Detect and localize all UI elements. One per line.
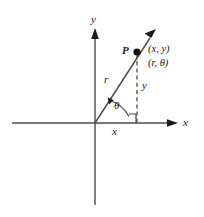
- y-axis: [91, 28, 99, 205]
- polar-coordinate-diagram: y x P (x, y) (r, θ) r θ x y: [0, 0, 204, 217]
- cartesian-coordinate-label: (x, y): [148, 44, 170, 55]
- theta-arc-path: [110, 101, 129, 117]
- x-axis-arrowhead: [167, 119, 178, 127]
- y-axis-label: y: [91, 14, 96, 25]
- point-p-marker: [133, 48, 140, 55]
- horizontal-leg-label: x: [112, 126, 117, 137]
- radius-label: r: [104, 74, 108, 85]
- x-axis-label: x: [183, 117, 188, 128]
- polar-coordinate-label: (r, θ): [148, 58, 168, 69]
- diagram-canvas: [0, 0, 204, 217]
- right-angle-marker-icon: [129, 114, 136, 122]
- theta-label: θ: [114, 100, 119, 111]
- point-p-label: P: [122, 45, 129, 56]
- ray-arrowhead: [145, 29, 157, 38]
- vertical-leg-label: y: [142, 80, 147, 91]
- y-axis-arrowhead: [91, 28, 99, 39]
